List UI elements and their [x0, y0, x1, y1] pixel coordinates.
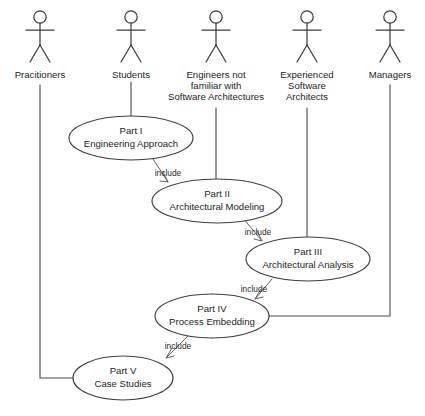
actor-label-line-2: familiar with — [191, 80, 242, 91]
use-case-subtitle: Architectural Modeling — [170, 201, 265, 212]
actor-managers[interactable]: Managers — [369, 11, 412, 80]
actor-stick-figure-icon — [26, 11, 54, 62]
actor-stick-figure-icon — [202, 11, 230, 62]
use-case-title: Part II — [204, 188, 230, 199]
assoc-managers-part4 — [269, 85, 390, 316]
use-case-diagram: Pracitioners Students Engineers not fami… — [0, 0, 425, 416]
actor-stick-figure-icon — [376, 11, 404, 62]
use-case-title: Part III — [294, 246, 322, 257]
actor-label-line-1: Experienced — [280, 69, 333, 80]
include-label: include — [241, 284, 268, 294]
use-case-subtitle: Engineering Approach — [84, 138, 178, 149]
actor-engineers-not-familiar[interactable]: Engineers not familiar with Software Arc… — [168, 11, 264, 102]
assoc-practitioners-part5 — [40, 85, 73, 378]
actor-label-line-3: Architects — [286, 91, 328, 102]
include-part1-part2[interactable]: include — [151, 156, 182, 182]
use-case-title: Part I — [120, 125, 143, 136]
use-case-title: Part V — [110, 365, 137, 376]
use-case-subtitle: Process Embedding — [169, 316, 255, 327]
include-label: include — [155, 168, 182, 178]
actor-practitioners[interactable]: Pracitioners — [15, 11, 66, 80]
use-case-subtitle: Architectural Analysis — [262, 259, 353, 270]
diagram-canvas: Pracitioners Students Engineers not fami… — [0, 0, 425, 416]
actor-label: Managers — [369, 69, 412, 80]
use-case-part-2[interactable]: Part II Architectural Modeling — [152, 179, 282, 223]
use-case-subtitle: Case Studies — [94, 378, 151, 389]
include-part4-part5[interactable]: include — [165, 336, 192, 358]
include-label: include — [245, 227, 272, 237]
actor-label-line-3: Software Architectures — [168, 91, 264, 102]
actor-stick-figure-icon — [117, 11, 145, 62]
actor-students[interactable]: Students — [112, 11, 150, 80]
use-case-part-5[interactable]: Part V Case Studies — [73, 356, 173, 400]
include-part3-part4[interactable]: include — [241, 279, 272, 299]
actor-label: Students — [112, 69, 150, 80]
include-part2-part3[interactable]: include — [243, 218, 272, 241]
actor-experienced-software-architects[interactable]: Experienced Software Architects — [280, 11, 333, 102]
include-label: include — [165, 341, 192, 351]
use-case-part-3[interactable]: Part III Architectural Analysis — [246, 237, 370, 281]
actor-label: Pracitioners — [15, 69, 66, 80]
actor-label-line-1: Engineers not — [186, 69, 246, 80]
use-case-part-1[interactable]: Part I Engineering Approach — [69, 116, 193, 160]
actor-label-line-2: Software — [288, 80, 326, 91]
actor-stick-figure-icon — [293, 11, 321, 62]
use-case-part-4[interactable]: Part IV Process Embedding — [155, 294, 269, 338]
use-case-title: Part IV — [197, 303, 227, 314]
